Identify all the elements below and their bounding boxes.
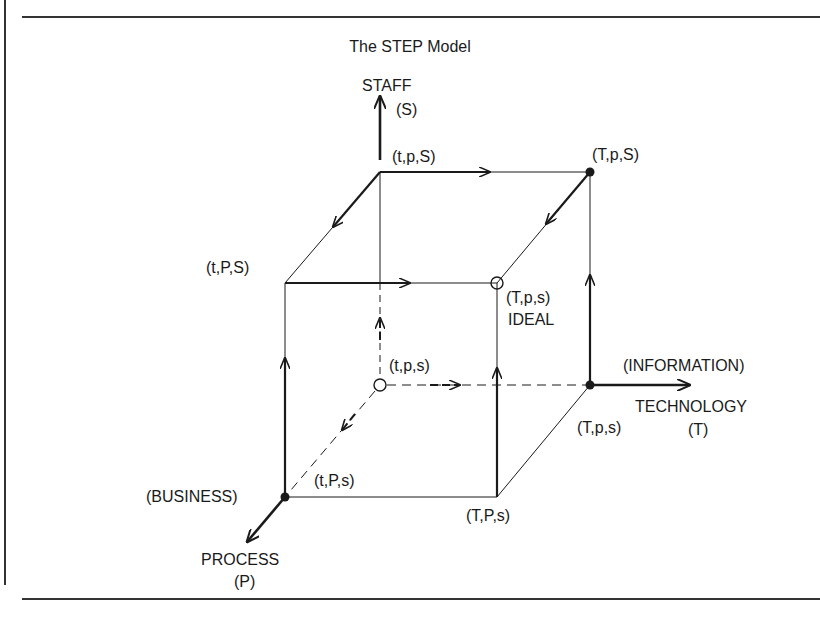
vertex-label-Tps-right: (T,p,s) <box>577 419 621 437</box>
vertex-tPs-dot <box>281 493 290 502</box>
staff-axis-label: STAFF <box>362 77 411 95</box>
technology-axis-label: TECHNOLOGY <box>635 398 747 416</box>
staff-axis-symbol: (S) <box>396 101 417 119</box>
vertex-label-TpS: (T,p,S) <box>592 146 639 164</box>
vertex-label-tPs: (t,P,s) <box>314 472 355 490</box>
vertex-origin-open-circle <box>374 379 386 391</box>
ideal-label: IDEAL <box>508 311 554 329</box>
technology-axis-qualifier: (INFORMATION) <box>623 357 744 375</box>
process-axis-qualifier: (BUSINESS) <box>146 488 238 506</box>
technology-axis-symbol: (T) <box>688 421 708 439</box>
cube-edges <box>285 172 590 497</box>
vertex-label-tpS: (t,p,S) <box>392 148 436 166</box>
vertex-label-tPS: (t,P,S) <box>206 259 249 277</box>
vertex-label-Tps-ideal: (T,p,s) <box>506 289 550 307</box>
vertex-TpS-dot <box>586 168 595 177</box>
vertex-label-tps: (t,p,s) <box>389 357 430 375</box>
process-axis-label: PROCESS <box>201 551 279 569</box>
vertex-Tps-dot <box>586 381 595 390</box>
process-axis-symbol: (P) <box>234 573 255 591</box>
process-axis-arrow <box>247 497 285 542</box>
vertex-label-TPs: (T,P,s) <box>466 507 510 525</box>
